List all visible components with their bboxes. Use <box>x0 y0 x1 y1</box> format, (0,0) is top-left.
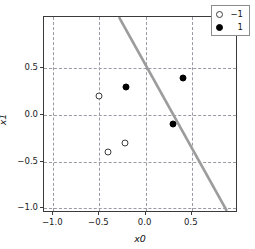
legend-label: −1 <box>229 9 243 19</box>
x-tick-mark <box>52 212 53 215</box>
y-tick-label: −0.5 <box>17 156 38 166</box>
x-tick-mark <box>191 212 192 215</box>
x-tick-label: 0.0 <box>138 217 152 227</box>
y-tick-mark <box>40 114 43 115</box>
x-axis-label: x0 <box>43 233 237 244</box>
y-tick-mark <box>40 207 43 208</box>
data-point-class-negative <box>122 140 129 147</box>
open-circle-icon <box>216 11 223 18</box>
legend-label: 1 <box>229 22 243 32</box>
plot-area <box>43 16 237 212</box>
x-tick-label: 0.5 <box>184 217 198 227</box>
filled-circle-icon <box>216 24 223 31</box>
data-point-class-negative <box>96 93 103 100</box>
x-tick-mark <box>145 212 146 215</box>
data-point-class-negative <box>104 149 111 156</box>
legend-entry: −1 <box>216 9 243 19</box>
data-point-class-positive <box>179 74 186 81</box>
y-tick-label: 0.0 <box>24 109 38 119</box>
scatter-plot-figure: −1.0−0.50.00.5 0.50.0−0.5−1.0 x0 x1 −11 <box>0 0 255 249</box>
legend-entry: 1 <box>216 22 243 32</box>
y-tick-label: 0.5 <box>24 62 38 72</box>
x-tick-label: −0.5 <box>88 217 109 227</box>
y-tick-mark <box>40 67 43 68</box>
x-tick-mark <box>98 212 99 215</box>
x-tick-label: −1.0 <box>42 217 63 227</box>
data-point-class-positive <box>123 84 130 91</box>
y-tick-mark <box>40 161 43 162</box>
decision-boundary-line <box>44 17 236 211</box>
data-point-class-positive <box>170 121 177 128</box>
legend: −11 <box>211 5 250 36</box>
y-axis-label: x1 <box>0 114 8 126</box>
y-tick-label: −1.0 <box>17 202 38 212</box>
